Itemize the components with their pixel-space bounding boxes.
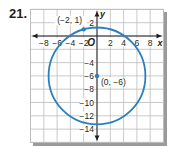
x-tick-label: 2 xyxy=(108,38,113,48)
point-marker xyxy=(82,27,86,31)
y-tick-label: −6 xyxy=(84,71,94,81)
origin-label: O xyxy=(87,37,95,48)
point-label: (0, −6) xyxy=(101,77,126,87)
point-label: (−2, 1) xyxy=(57,15,82,25)
y-tick-label: −4 xyxy=(84,58,94,68)
x-tick-label: −8 xyxy=(39,38,49,48)
x-axis-label: x xyxy=(156,38,163,48)
x-tick-label: 8 xyxy=(148,38,153,48)
y-tick-label: −10 xyxy=(80,98,95,108)
point-marker xyxy=(95,74,99,78)
x-tick-label: −6 xyxy=(52,38,62,48)
y-tick-label: −14 xyxy=(80,124,95,134)
y-tick-label: 2 xyxy=(89,18,94,28)
y-axis-label: y xyxy=(99,9,106,19)
x-tick-label: 4 xyxy=(121,38,126,48)
coordinate-plane: −8−6−4−224682−4−6−8−10−12−14Oxy (−2, 1)(… xyxy=(0,0,173,146)
y-tick-label: −12 xyxy=(80,111,95,121)
y-tick-label: −8 xyxy=(84,84,94,94)
